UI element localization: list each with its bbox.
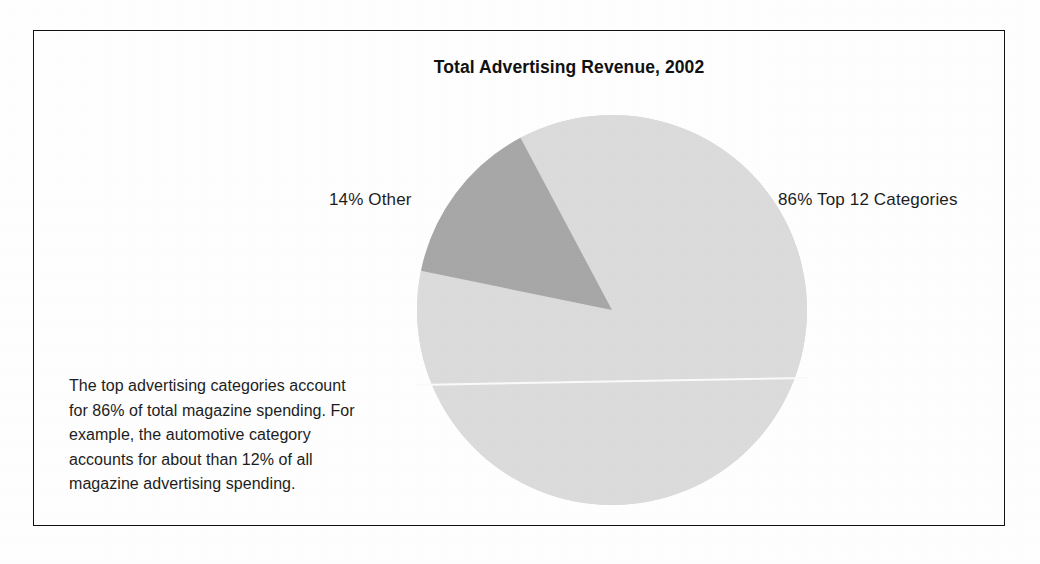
figure-container: Total Advertising Revenue, 2002 14% Othe… bbox=[0, 0, 1040, 564]
figure-border-frame: Total Advertising Revenue, 2002 14% Othe… bbox=[33, 30, 1005, 526]
figure-caption: The top advertising categories account f… bbox=[69, 374, 369, 497]
pie-label-other: 14% Other bbox=[329, 190, 412, 210]
pie-label-top-12-categories: 86% Top 12 Categories bbox=[778, 190, 958, 210]
